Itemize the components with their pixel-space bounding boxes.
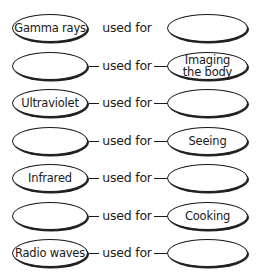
- diagram-row-3: Ultraviolet used for: [0, 89, 261, 121]
- use-ellipse[interactable]: [167, 89, 248, 117]
- used-for-label: used for: [100, 95, 154, 110]
- connector-line: [89, 178, 99, 179]
- used-for-label: used for: [100, 170, 154, 185]
- use-ellipse[interactable]: Seeing: [167, 127, 248, 155]
- connector-line: [154, 216, 167, 217]
- used-for-label: used for: [100, 245, 154, 260]
- connector-line: [89, 216, 99, 217]
- diagram-row-5: Infrared used for: [0, 164, 261, 196]
- used-for-label: used for: [100, 208, 154, 223]
- used-for-label: used for: [100, 133, 154, 148]
- used-for-label: used for: [100, 20, 154, 35]
- connector-line: [89, 253, 99, 254]
- diagram-row-4: used for Seeing: [0, 127, 261, 159]
- diagram-row-1: Gamma rays used for: [0, 14, 261, 46]
- radiation-type-ellipse[interactable]: Gamma rays: [12, 14, 88, 42]
- radiation-type-ellipse[interactable]: [12, 52, 88, 80]
- connector-line: [89, 141, 99, 142]
- use-ellipse[interactable]: [167, 239, 248, 267]
- radiation-type-ellipse[interactable]: [12, 127, 88, 155]
- used-for-label: used for: [100, 58, 154, 73]
- diagram-row-6: used for Cooking: [0, 202, 261, 234]
- use-ellipse[interactable]: Imaging the body: [167, 52, 248, 80]
- use-ellipse[interactable]: [167, 164, 248, 192]
- diagram-row-2: used for Imaging the body: [0, 52, 261, 84]
- diagram-row-7: Radio waves used for: [0, 239, 261, 271]
- radiation-type-ellipse[interactable]: Infrared: [12, 164, 88, 192]
- connector-line: [89, 103, 99, 104]
- radiation-type-ellipse[interactable]: Ultraviolet: [12, 89, 88, 117]
- connector-line: [89, 66, 99, 67]
- radiation-type-ellipse[interactable]: [12, 202, 88, 230]
- connector-line: [154, 253, 167, 254]
- connector-line: [154, 141, 167, 142]
- radiation-uses-diagram: Gamma rays used for used for Imaging the…: [0, 0, 261, 275]
- use-ellipse[interactable]: Cooking: [167, 202, 248, 230]
- use-ellipse[interactable]: [167, 14, 248, 42]
- radiation-type-ellipse[interactable]: Radio waves: [12, 239, 88, 267]
- connector-line: [154, 178, 167, 179]
- connector-line: [154, 103, 167, 104]
- connector-line: [154, 66, 167, 67]
